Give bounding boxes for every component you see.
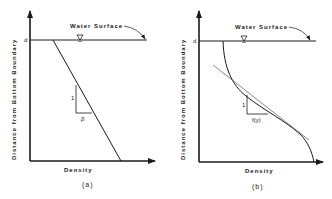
y-axis-label-a: Distance from Bottom Boundary: [11, 39, 17, 160]
water-surface-pointer-b: [289, 27, 310, 40]
slope-rise-label-b: 1: [242, 102, 246, 108]
depth-marker-b: d: [193, 38, 196, 44]
water-surface-symbol-a: [77, 35, 83, 40]
slope-triangle-a: [76, 85, 92, 113]
water-surface-label-b: Water Surface: [235, 24, 288, 30]
x-axis-label-a: Density: [64, 167, 93, 173]
panel-b: d Water Surface 1 f(y) Density Distance …: [180, 11, 323, 191]
caption-a: (a): [82, 181, 94, 189]
water-surface-label-a: Water Surface: [70, 23, 123, 29]
water-surface-pointer-a: [124, 26, 145, 39]
panel-a: d Water Surface 1 β Density Distance fro…: [11, 11, 155, 189]
x-axis-label-b: Density: [245, 168, 274, 174]
curved-density-profile-b: [223, 41, 314, 162]
slope-run-label-a: β: [80, 116, 85, 122]
caption-b: (b): [252, 183, 264, 191]
slope-run-label-b: f(y): [252, 117, 261, 123]
y-axis-label-b: Distance from Bottom Boundary: [180, 39, 186, 160]
density-profile-figure: d Water Surface 1 β Density Distance fro…: [0, 0, 332, 199]
tangent-line-b: [213, 65, 309, 140]
slope-rise-label-a: 1: [71, 95, 75, 101]
depth-marker-a: d: [24, 37, 27, 43]
linear-density-profile-a: [53, 40, 121, 161]
water-surface-symbol-b: [241, 36, 247, 41]
